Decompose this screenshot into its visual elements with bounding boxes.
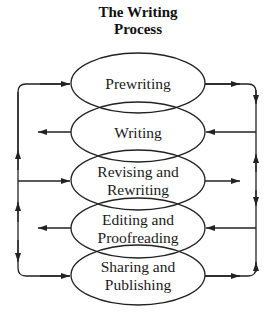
stage-label-revising-line1: Revising and: [97, 163, 179, 180]
stage-label-sharing-line2: Publishing: [105, 276, 172, 293]
stage-label-editing-line2: Proofreading: [98, 229, 179, 246]
stage-label-revising-line2: Rewriting: [107, 181, 169, 198]
stage-label-sharing-line1: Sharing and: [101, 258, 176, 275]
right-loop-line: [205, 84, 256, 276]
stage-ellipse-editing: [71, 198, 205, 258]
writing-process-diagram: Prewriting Writing Revising and Rewritin…: [0, 0, 273, 317]
left-loop-line: [18, 84, 70, 150]
stage-ellipse-sharing: [71, 245, 205, 305]
stage-label-prewriting: Prewriting: [105, 75, 171, 92]
stage-label-editing-line1: Editing and: [102, 211, 174, 228]
stage-label-writing: Writing: [114, 124, 162, 141]
stage-ellipse-revising: [71, 150, 205, 210]
